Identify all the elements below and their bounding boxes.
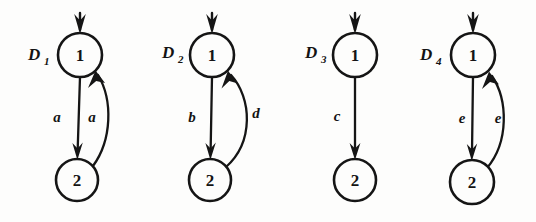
- diagram-D3: 1 2 c D 3: [304, 13, 377, 201]
- diagram-label-D2: D: [161, 43, 174, 62]
- edge-label-D2-up: d: [252, 105, 260, 121]
- edge-D2-2-to-1: [222, 71, 247, 167]
- node-D1-state-2-label: 2: [73, 171, 82, 190]
- initial-arrow-D2: [206, 13, 218, 34]
- diagram-label-D3: D: [304, 43, 317, 62]
- node-D2-state-2-label: 2: [206, 171, 215, 190]
- edge-label-D2-down: b: [188, 109, 196, 125]
- node-D4-state-1-label: 1: [469, 46, 478, 65]
- edge-D3-1-to-2: [350, 77, 361, 160]
- diagram-label-D1: D: [27, 45, 40, 64]
- edge-D1-1-to-2: [72, 77, 82, 160]
- diagram-label-D2-subscript: 2: [177, 53, 184, 65]
- diagram-label-D1-subscript: 1: [44, 55, 50, 67]
- edge-D2-1-to-2: [205, 77, 215, 160]
- node-D1-state-1-label: 1: [76, 46, 85, 65]
- initial-arrow-D3: [349, 13, 361, 34]
- node-D3-state-1-label: 1: [351, 46, 360, 65]
- edge-D4-1-to-2: [467, 77, 477, 161]
- diagram-label-D3-subscript: 3: [320, 53, 327, 65]
- edge-label-D4-up: e: [495, 110, 502, 126]
- node-D2-state-1-label: 1: [208, 46, 217, 65]
- edge-label-D4-down: e: [459, 110, 466, 126]
- diagram-D4: 1 2 e e D 4: [419, 13, 504, 204]
- automata-transition-diagrams-figure: 1 2 a a D 1 1: [0, 0, 536, 222]
- initial-arrow-D4: [467, 13, 479, 34]
- edge-label-D1-down: a: [53, 109, 61, 125]
- node-D4-state-2-label: 2: [468, 173, 477, 192]
- node-D3-state-2-label: 2: [351, 171, 360, 190]
- diagram-label-D4: D: [419, 45, 432, 64]
- diagram-label-D4-subscript: 4: [435, 55, 442, 67]
- diagram-D1: 1 2 a a D 1: [27, 13, 108, 201]
- edge-label-D3-down: c: [334, 108, 341, 124]
- figure-canvas: 1 2 a a D 1 1: [0, 0, 536, 222]
- edge-label-D1-up: a: [88, 109, 96, 125]
- initial-arrow-D1: [74, 13, 86, 34]
- diagram-D2: 1 2 b d D 2: [161, 13, 260, 201]
